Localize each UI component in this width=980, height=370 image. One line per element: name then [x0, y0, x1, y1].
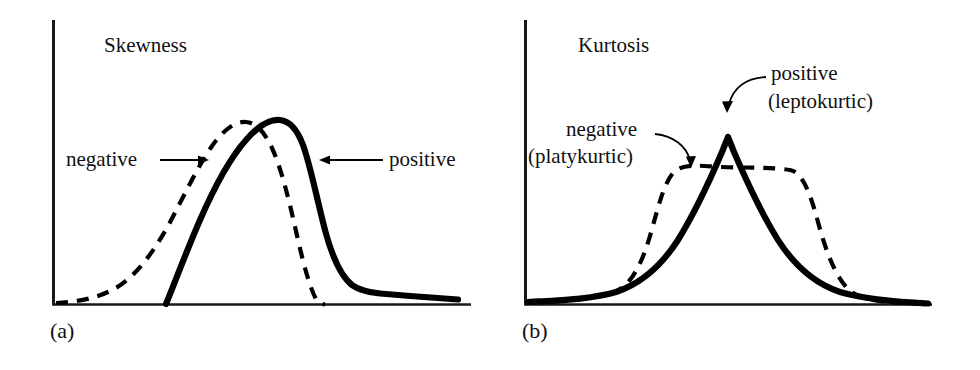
figure-container: Skewness negative positive (a) Kurtosis …: [0, 0, 980, 370]
curved-arrow-icon-shaft-2: [729, 77, 766, 104]
panel-b-label-negative-line1: negative: [566, 119, 637, 140]
curved-arrow-icon-shaft: [655, 134, 690, 160]
left-arrow-icon-head: [319, 156, 330, 165]
panel-b-positive-arrow: [722, 77, 766, 113]
panel-b-negative-arrow: [655, 134, 696, 168]
panel-a-title: Skewness: [104, 35, 187, 56]
panel-b-tag: (b): [522, 320, 548, 342]
panel-b-curve-negative: [528, 166, 931, 305]
panel-a-positive-arrow: [319, 156, 383, 165]
panel-a-label-negative: negative: [66, 149, 137, 170]
panel-a-label-positive: positive: [389, 149, 456, 170]
panel-b-title: Kurtosis: [578, 35, 649, 56]
curved-arrow-icon-head-2: [722, 101, 733, 113]
panel-a-tag: (a): [50, 320, 74, 342]
panel-b-label-positive-line1: positive: [771, 63, 838, 84]
panel-b-label-negative-line2: (platykurtic): [528, 146, 633, 167]
panel-b-label-positive-line2: (leptokurtic): [768, 91, 873, 112]
